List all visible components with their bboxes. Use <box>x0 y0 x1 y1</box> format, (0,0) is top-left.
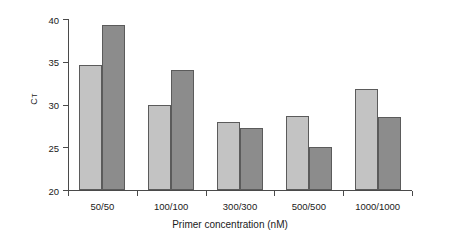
y-axis-tick: 40 <box>63 19 68 20</box>
bar <box>378 117 401 190</box>
bar <box>79 65 102 190</box>
y-axis-tick: 25 <box>63 147 68 148</box>
y-axis-tick-label: 40 <box>48 14 59 25</box>
x-axis-tick <box>137 191 138 196</box>
bar <box>171 70 194 190</box>
y-axis-tick-label: 30 <box>48 100 59 111</box>
x-axis-tick-label: 500/500 <box>292 201 326 212</box>
bar <box>355 89 378 190</box>
y-axis-line <box>68 19 69 191</box>
x-axis-tick <box>68 191 69 196</box>
bar <box>309 147 332 190</box>
bar <box>102 25 125 190</box>
x-axis-tick-label: 300/300 <box>223 201 257 212</box>
bar <box>286 116 309 190</box>
x-axis-tick-label: 100/100 <box>154 201 188 212</box>
y-axis-tick-label: 35 <box>48 57 59 68</box>
y-axis-title-subscript: T <box>31 93 38 97</box>
x-axis-title: Primer concentration (nM) <box>0 219 460 230</box>
bar <box>240 128 263 190</box>
bar-chart-figure: CT 2025303540 50/50100/100300/300500/500… <box>0 0 460 245</box>
x-axis-tick <box>412 191 413 196</box>
bar <box>217 122 240 190</box>
plot-area: 2025303540 50/50100/100300/300500/500100… <box>68 19 412 191</box>
x-axis-tick <box>274 191 275 196</box>
y-axis-title-base: C <box>29 98 39 105</box>
y-axis-tick: 35 <box>63 62 68 63</box>
y-axis-tick-label: 20 <box>48 185 59 196</box>
bar <box>148 105 171 191</box>
x-axis-tick <box>206 191 207 196</box>
x-axis-line <box>68 190 412 191</box>
y-axis-title: CT <box>21 79 47 119</box>
y-axis-tick: 30 <box>63 105 68 106</box>
x-axis-tick <box>343 191 344 196</box>
y-axis-tick-label: 25 <box>48 142 59 153</box>
x-axis-tick-label: 1000/1000 <box>355 201 400 212</box>
x-axis-tick-label: 50/50 <box>91 201 115 212</box>
